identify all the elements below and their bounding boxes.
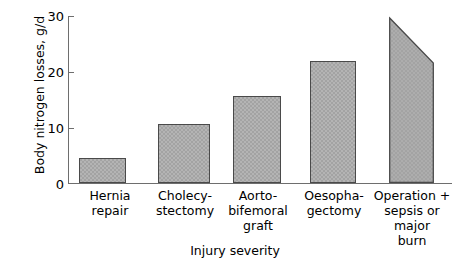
y-tick-label-10: 10	[36, 122, 64, 135]
bar-hernia-repair	[79, 158, 126, 183]
bar-operation-sepsis-major-burn	[389, 16, 434, 183]
y-axis-tick-20	[69, 72, 74, 73]
plot-area	[68, 16, 452, 184]
bar-aorto-bifemoral-graft	[233, 96, 281, 183]
y-tick-label-30: 30	[36, 10, 64, 23]
category-label-line: Operation +	[366, 188, 458, 203]
y-tick-label-20: 20	[36, 66, 64, 79]
x-axis-title: Injury severity	[0, 243, 470, 258]
bar-oesophagectomy	[310, 61, 356, 183]
category-label-line: sepsis or	[366, 203, 458, 218]
y-axis-tick-30	[69, 16, 74, 17]
category-label-line: major	[366, 218, 458, 233]
chart-figure: Body nitrogen losses, g/d 30 20 10 0	[0, 0, 470, 266]
y-tick-label-0: 0	[36, 178, 64, 191]
category-label-line: graft	[214, 218, 302, 233]
category-label-oesophagectomy: Oesopha- gectomy	[290, 188, 378, 218]
category-label-operation-sepsis-major-burn: Operation + sepsis or major burn	[366, 188, 458, 248]
category-label-line: Oesopha-	[290, 188, 378, 203]
y-axis-tick-10	[69, 128, 74, 129]
bar-cholecystectomy	[158, 124, 210, 183]
bar-wedge-shape	[389, 16, 434, 183]
category-label-aorto-bifemoral-graft: Aorto- bifemoral graft	[214, 188, 302, 233]
category-label-line: gectomy	[290, 203, 378, 218]
x-axis-line	[68, 183, 452, 184]
category-label-line: bifemoral	[214, 203, 302, 218]
category-label-line: Aorto-	[214, 188, 302, 203]
x-axis-category-labels: Hernia repair Cholecy- stectomy Aorto- b…	[68, 188, 452, 248]
y-axis-line	[68, 16, 69, 184]
y-axis-tick-labels: 30 20 10 0	[36, 0, 64, 266]
